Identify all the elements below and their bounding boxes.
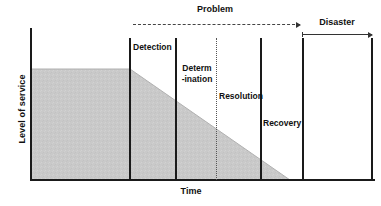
disaster-arrow-shaft xyxy=(302,34,372,35)
divider-disaster-end xyxy=(371,38,373,180)
y-axis-line xyxy=(30,28,32,181)
span-arrow-problem xyxy=(133,24,300,25)
divider-detection-start xyxy=(129,38,131,180)
y-axis-title: Level of service xyxy=(17,49,27,169)
divider-resolution-start xyxy=(216,38,218,180)
span-arrow-disaster xyxy=(302,34,372,35)
service-degradation-chart: Level of service Time Detection Determ -… xyxy=(0,0,381,206)
phase-label-resolution: Resolution xyxy=(219,91,263,102)
span-label-problem: Problem xyxy=(175,4,255,14)
phase-label-detection: Detection xyxy=(133,42,172,53)
phase-label-determination: Determ -ination xyxy=(178,63,216,84)
x-axis-title: Time xyxy=(31,186,351,196)
phase-label-determination-line1: Determ xyxy=(182,63,211,73)
divider-determination-start xyxy=(175,38,177,180)
phase-label-determination-line2: -ination xyxy=(182,74,213,84)
x-axis-line xyxy=(30,179,375,181)
phase-label-recovery: Recovery xyxy=(263,118,301,129)
disaster-arrow-head xyxy=(368,32,373,38)
level-of-service-area xyxy=(31,28,375,180)
divider-disaster-start xyxy=(302,38,304,180)
divider-recovery-start xyxy=(260,38,262,180)
problem-arrow-shaft xyxy=(133,24,300,25)
span-label-disaster: Disaster xyxy=(297,17,377,27)
